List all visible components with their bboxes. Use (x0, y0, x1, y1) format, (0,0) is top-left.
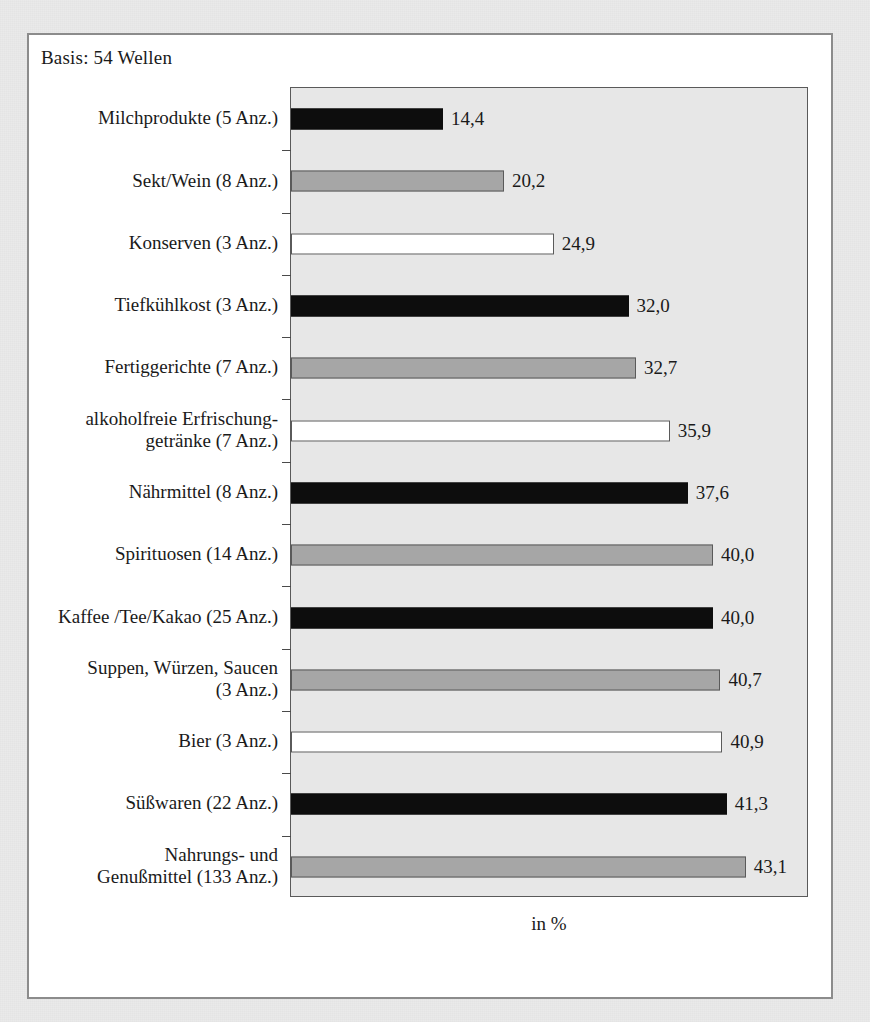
category-tick (282, 773, 291, 774)
bar[interactable] (291, 732, 722, 753)
category-label: Nahrungs- undGenußmittel (133 Anz.) (29, 835, 284, 897)
category-tick (282, 337, 291, 338)
category-label: Milchprodukte (5 Anz.) (29, 87, 284, 149)
category-axis-labels: Milchprodukte (5 Anz.)Sekt/Wein (8 Anz.)… (29, 87, 284, 897)
bar[interactable] (291, 233, 554, 254)
bar-row: 41,3 (291, 773, 807, 835)
x-axis-title: in % (290, 913, 808, 935)
bar-value-label: 24,9 (562, 233, 595, 255)
bar[interactable] (291, 171, 504, 192)
category-label: Konserven (3 Anz.) (29, 212, 284, 274)
category-label: Nährmittel (8 Anz.) (29, 461, 284, 523)
bar-row: 32,0 (291, 275, 807, 337)
category-tick (282, 399, 291, 400)
category-tick (282, 836, 291, 837)
basis-note: Basis: 54 Wellen (41, 47, 172, 69)
bar[interactable] (291, 109, 443, 130)
category-label: alkoholfreie Erfrischung-getränke (7 Anz… (29, 398, 284, 460)
bar-value-label: 40,0 (721, 607, 754, 629)
bar-row: 20,2 (291, 150, 807, 212)
bar[interactable] (291, 296, 629, 317)
bar[interactable] (291, 358, 636, 379)
bar-value-label: 14,4 (451, 108, 484, 130)
bar[interactable] (291, 545, 713, 566)
bar-value-label: 43,1 (754, 856, 787, 878)
bar-row: 14,4 (291, 88, 807, 150)
category-tick (282, 524, 291, 525)
bar-row: 35,9 (291, 399, 807, 461)
category-label: Tiefkühlkost (3 Anz.) (29, 274, 284, 336)
bar[interactable] (291, 482, 688, 503)
category-label: Fertiggerichte (7 Anz.) (29, 336, 284, 398)
bar-row: 40,0 (291, 524, 807, 586)
chart-card: Basis: 54 Wellen Milchprodukte (5 Anz.)S… (27, 33, 833, 999)
bar-value-label: 40,9 (730, 731, 763, 753)
category-tick (282, 275, 291, 276)
bar-row: 43,1 (291, 836, 807, 898)
category-tick (282, 150, 291, 151)
bar[interactable] (291, 420, 670, 441)
category-label: Süßwaren (22 Anz.) (29, 772, 284, 834)
plot-area: 14,420,224,932,032,735,937,640,040,040,7… (290, 87, 808, 897)
category-label: Kaffee /Tee/Kakao (25 Anz.) (29, 585, 284, 647)
category-tick (282, 462, 291, 463)
bar-value-label: 37,6 (696, 482, 729, 504)
category-tick (282, 649, 291, 650)
bar-row: 40,0 (291, 586, 807, 648)
bar-value-label: 40,7 (728, 669, 761, 691)
bar-value-label: 32,0 (637, 295, 670, 317)
page-background: Basis: 54 Wellen Milchprodukte (5 Anz.)S… (0, 0, 870, 1022)
category-label: Suppen, Würzen, Saucen(3 Anz.) (29, 648, 284, 710)
category-tick (282, 711, 291, 712)
category-tick (282, 213, 291, 214)
bar-value-label: 40,0 (721, 544, 754, 566)
bar[interactable] (291, 669, 720, 690)
bar-value-label: 20,2 (512, 170, 545, 192)
bar-value-label: 35,9 (678, 420, 711, 442)
bar-row: 40,9 (291, 711, 807, 773)
bar-row: 40,7 (291, 649, 807, 711)
bar-value-label: 32,7 (644, 357, 677, 379)
category-label: Sekt/Wein (8 Anz.) (29, 149, 284, 211)
bar-value-label: 41,3 (735, 793, 768, 815)
bar[interactable] (291, 794, 727, 815)
bar-row: 37,6 (291, 462, 807, 524)
category-tick (282, 586, 291, 587)
bar-row: 24,9 (291, 213, 807, 275)
bar[interactable] (291, 607, 713, 628)
bar[interactable] (291, 856, 746, 877)
category-label: Bier (3 Anz.) (29, 710, 284, 772)
category-label: Spirituosen (14 Anz.) (29, 523, 284, 585)
bar-row: 32,7 (291, 337, 807, 399)
bar-rows: 14,420,224,932,032,735,937,640,040,040,7… (291, 88, 807, 896)
